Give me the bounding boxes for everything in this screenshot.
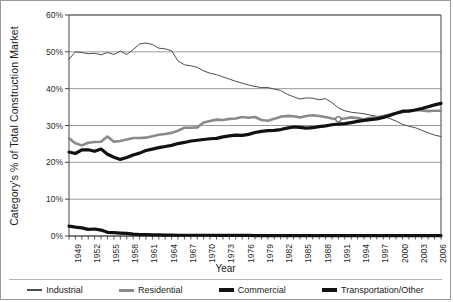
legend-item[interactable]: Industrial: [27, 285, 83, 295]
legend-item[interactable]: Commercial: [219, 285, 286, 295]
chart-legend: IndustrialResidentialCommercialTransport…: [9, 279, 442, 298]
legend-swatch-icon: [322, 288, 337, 292]
legend-swatch-icon: [27, 289, 42, 291]
legend-item[interactable]: Transportation/Other: [322, 285, 424, 295]
legend-item[interactable]: Residential: [119, 285, 183, 295]
x-axis-title: Year: [1, 263, 450, 274]
legend-label: Residential: [138, 285, 183, 295]
chart-container: Category's % of Total Construction Marke…: [0, 0, 451, 300]
legend-swatch-icon: [119, 289, 134, 292]
legend-swatch-icon: [219, 288, 234, 292]
legend-label: Industrial: [46, 285, 83, 295]
plot-area: [1, 1, 452, 301]
legend-label: Commercial: [238, 285, 286, 295]
data-point-marker: [336, 117, 341, 122]
legend-label: Transportation/Other: [341, 285, 424, 295]
